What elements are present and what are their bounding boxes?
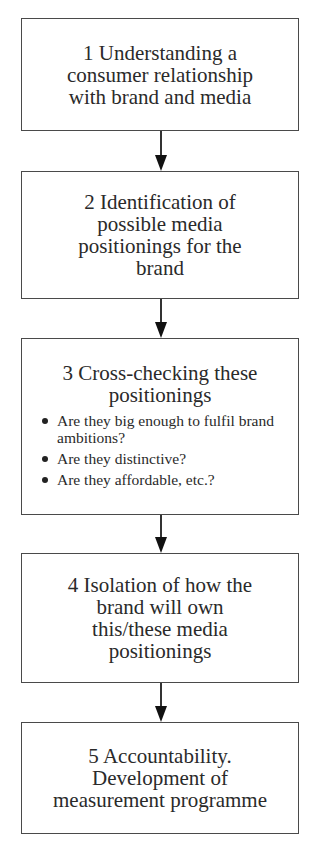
step-3-title: 3 Cross-checking these positionings (55, 362, 266, 406)
arrow-shaft (160, 131, 162, 157)
arrow-head-icon (155, 706, 167, 722)
step-3-box: 3 Cross-checking these positionings Are … (21, 338, 299, 515)
arrow-head-icon (155, 155, 167, 171)
arrow-shaft (160, 515, 162, 539)
step-1-box: 1 Understanding a consumer relationship … (21, 18, 299, 131)
bullet-item: Are they distinctive? (42, 450, 298, 467)
step-5-title: 5 Accountability. Development of measure… (45, 745, 275, 811)
step-3-line: 3 Cross-checking these (63, 362, 258, 384)
step-3-line: positionings (63, 384, 258, 406)
bullet-item: Are they big enough to fulfil brand ambi… (42, 412, 298, 446)
step-3-bullet-list: Are they big enough to fulfil brand ambi… (22, 412, 298, 492)
arrow-shaft (160, 299, 162, 324)
step-2-line: 2 Identification of (78, 191, 241, 213)
step-4-line: positionings (68, 640, 252, 662)
step-4-line: 4 Isolation of how the (68, 574, 252, 596)
step-5-line: Development of (53, 767, 267, 789)
arrow-shaft (160, 683, 162, 708)
step-4-line: brand will own (68, 596, 252, 618)
step-1-line: with brand and media (67, 86, 253, 108)
step-1-line: consumer relationship (67, 64, 253, 86)
step-5-line: 5 Accountability. (53, 745, 267, 767)
step-4-box: 4 Isolation of how the brand will own th… (21, 553, 299, 683)
step-1-title: 1 Understanding a consumer relationship … (59, 42, 261, 108)
bullet-item: Are they affordable, etc.? (42, 471, 298, 488)
step-1-line: 1 Understanding a (67, 42, 253, 64)
step-2-line: brand (78, 257, 241, 279)
step-5-box: 5 Accountability. Development of measure… (21, 722, 299, 834)
step-2-box: 2 Identification of possible media posit… (21, 171, 299, 299)
step-2-line: positionings for the (78, 235, 241, 257)
step-2-title: 2 Identification of possible media posit… (70, 191, 249, 279)
arrow-head-icon (155, 537, 167, 553)
step-2-line: possible media (78, 213, 241, 235)
step-4-line: this/these media (68, 618, 252, 640)
step-5-line: measurement programme (53, 789, 267, 811)
arrow-head-icon (155, 322, 167, 338)
step-4-title: 4 Isolation of how the brand will own th… (60, 574, 260, 662)
